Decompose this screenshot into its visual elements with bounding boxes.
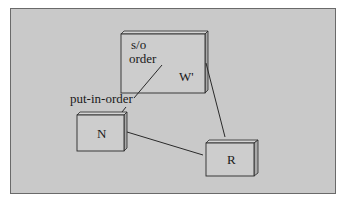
node-n-label: N <box>97 127 106 141</box>
node-w-label: W' <box>179 70 194 84</box>
edge-w-to-r <box>206 63 225 137</box>
w-inner-text-so: s/o <box>131 38 146 52</box>
node-r-label: R <box>227 153 236 167</box>
edge-label-put-in-order: put-in-order <box>70 92 133 106</box>
edge-w-to-n-tick <box>122 107 126 112</box>
diagram-canvas <box>0 0 346 204</box>
w-inner-text-order: order <box>129 52 156 66</box>
edge-n-to-r <box>127 132 203 155</box>
